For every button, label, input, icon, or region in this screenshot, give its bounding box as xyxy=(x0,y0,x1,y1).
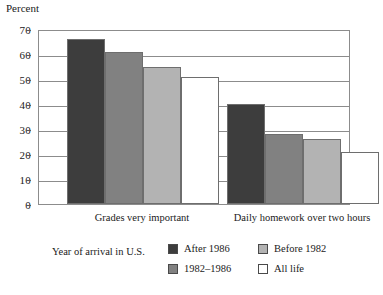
bar xyxy=(303,139,341,204)
x-axis-category-label: Daily homework over two hours xyxy=(212,212,383,223)
y-axis-tick-mark xyxy=(26,205,31,206)
legend-label: After 1986 xyxy=(184,244,230,255)
y-axis-tick-mark xyxy=(26,180,31,181)
bar xyxy=(227,104,265,204)
bar xyxy=(181,77,219,205)
y-axis-tick-labels: 010203040506070 xyxy=(0,30,31,205)
legend-swatch xyxy=(168,264,178,274)
bar xyxy=(143,67,181,205)
y-axis-title: Percent xyxy=(6,2,39,14)
legend-label: All life xyxy=(274,264,304,275)
y-axis-tick-mark xyxy=(26,30,31,31)
legend-label: 1982–1986 xyxy=(184,264,231,275)
legend-entry: After 1986 xyxy=(168,244,230,255)
legend-entry: Before 1982 xyxy=(258,244,326,255)
bar xyxy=(341,152,379,205)
y-axis-tick-mark xyxy=(26,80,31,81)
y-axis-tick-mark xyxy=(26,105,31,106)
y-axis-tick-mark xyxy=(26,130,31,131)
legend-swatch xyxy=(258,244,268,254)
y-axis-tick-mark xyxy=(26,155,31,156)
legend-entry: 1982–1986 xyxy=(168,264,231,275)
bar xyxy=(265,134,303,204)
legend-swatch xyxy=(258,264,268,274)
legend-swatch xyxy=(168,244,178,254)
bar xyxy=(105,52,143,205)
legend-label: Before 1982 xyxy=(274,244,326,255)
x-axis-category-label: Grades very important xyxy=(52,212,232,223)
legend-title: Year of arrival in U.S. xyxy=(52,246,145,257)
y-axis-tick-mark xyxy=(26,55,31,56)
plot-area xyxy=(38,30,350,205)
bar xyxy=(67,39,105,204)
legend-entry: All life xyxy=(258,264,304,275)
